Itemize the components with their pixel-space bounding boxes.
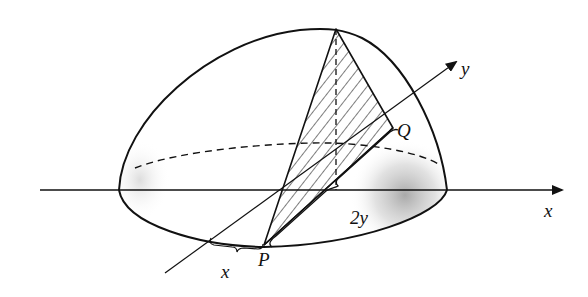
point-p-label: P (257, 249, 270, 270)
solid-cross-section-diagram: y x Q P x 2y (0, 0, 588, 297)
y-axis-label: y (459, 58, 470, 79)
point-q-label: Q (397, 120, 411, 141)
distance-x-label: x (220, 261, 230, 282)
base-length-2y-label: 2y (350, 207, 369, 228)
x-axis-label: x (543, 200, 553, 221)
